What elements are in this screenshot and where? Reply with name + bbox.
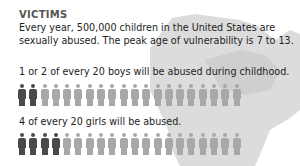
person-icon bbox=[154, 84, 162, 106]
person-icon bbox=[63, 84, 71, 106]
person-icon bbox=[165, 84, 173, 106]
person-icon-highlighted bbox=[18, 84, 26, 106]
person-icon bbox=[97, 84, 105, 106]
person-icon bbox=[221, 84, 229, 106]
person-icon bbox=[199, 84, 207, 106]
boys-statement: 1 or 2 of every 20 boys will be abused d… bbox=[19, 66, 289, 77]
girls-pictogram bbox=[18, 133, 241, 155]
person-icon bbox=[210, 133, 218, 155]
person-icon-highlighted bbox=[41, 133, 49, 155]
person-icon-highlighted bbox=[18, 133, 26, 155]
person-icon-highlighted bbox=[52, 133, 60, 155]
person-icon bbox=[108, 133, 116, 155]
person-icon bbox=[120, 133, 128, 155]
person-icon bbox=[199, 133, 207, 155]
person-icon bbox=[86, 133, 94, 155]
person-icon bbox=[131, 133, 139, 155]
girls-statement: 4 of every 20 girls will be abused. bbox=[19, 116, 181, 127]
person-icon bbox=[233, 133, 241, 155]
person-icon bbox=[97, 133, 105, 155]
person-icon bbox=[187, 84, 195, 106]
person-icon-highlighted bbox=[29, 84, 37, 106]
person-icon bbox=[142, 133, 150, 155]
person-icon bbox=[131, 84, 139, 106]
person-icon bbox=[52, 84, 60, 106]
infographic: VICTIMS Every year, 500,000 children in … bbox=[0, 0, 300, 166]
person-icon bbox=[165, 133, 173, 155]
section-title: VICTIMS bbox=[19, 9, 68, 20]
intro-text: Every year, 500,000 children in the Unit… bbox=[19, 21, 299, 47]
person-icon bbox=[108, 84, 116, 106]
person-icon bbox=[210, 84, 218, 106]
person-icon bbox=[176, 133, 184, 155]
person-icon bbox=[221, 133, 229, 155]
person-icon bbox=[74, 84, 82, 106]
person-icon bbox=[142, 84, 150, 106]
person-icon bbox=[154, 133, 162, 155]
person-icon bbox=[120, 84, 128, 106]
person-icon bbox=[41, 84, 49, 106]
person-icon bbox=[74, 133, 82, 155]
person-icon bbox=[86, 84, 94, 106]
person-icon bbox=[187, 133, 195, 155]
person-icon bbox=[233, 84, 241, 106]
person-icon bbox=[63, 133, 71, 155]
person-icon bbox=[176, 84, 184, 106]
person-icon-highlighted bbox=[29, 133, 37, 155]
boys-pictogram bbox=[18, 84, 241, 106]
